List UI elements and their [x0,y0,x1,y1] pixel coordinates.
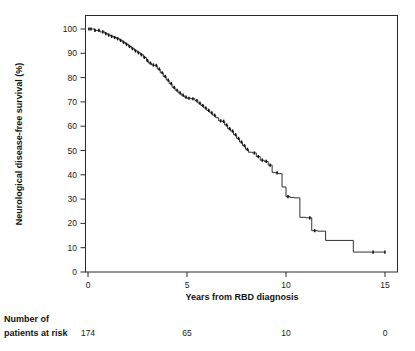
x-tick-label-10: 10 [281,280,291,290]
risk-value-t15: 0 [383,328,388,338]
y-tick-label-20: 20 [68,218,78,228]
risk-table-header-line2: patients at risk [4,328,69,338]
risk-value-t5: 65 [182,328,192,338]
km-survival-figure: 0102030405060708090100 051015 Neurologic… [0,0,415,351]
y-tick-label-80: 80 [68,73,78,83]
y-tick-label-70: 70 [68,97,78,107]
risk-value-t10: 10 [281,328,291,338]
y-tick-label-100: 100 [63,24,77,34]
risk-value-t0: 174 [81,328,95,338]
y-tick-label-40: 40 [68,170,78,180]
km-chart-svg: 0102030405060708090100 051015 Neurologic… [0,0,415,351]
y-tick-label-30: 30 [68,194,78,204]
y-tick-label-50: 50 [68,146,78,156]
y-tick-label-10: 10 [68,243,78,253]
x-tick-label-15: 15 [380,280,390,290]
risk-table-header-line1: Number of [4,314,50,324]
y-tick-label-0: 0 [72,267,77,277]
x-tick-label-5: 5 [185,280,190,290]
y-tick-label-90: 90 [68,48,78,58]
y-axis-title: Neurological disease-free survival (%) [14,63,24,226]
y-tick-label-60: 60 [68,121,78,131]
x-tick-label-0: 0 [86,280,91,290]
x-axis-title: Years from RBD diagnosis [185,292,298,302]
